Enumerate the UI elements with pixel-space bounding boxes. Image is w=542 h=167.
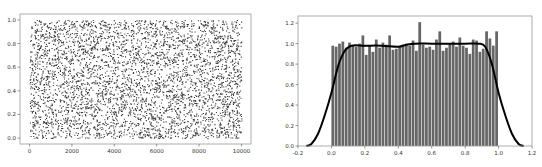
y-tick-label: 0.0 [7, 135, 16, 141]
histogram-bar [422, 45, 425, 146]
y-tick-label: 0.8 [7, 41, 16, 47]
histogram-bar [479, 52, 482, 146]
histogram-bar [492, 46, 495, 146]
histogram-bar [472, 40, 475, 146]
y-tick-label: 0.6 [285, 82, 294, 88]
x-tick-label: 0.6 [427, 150, 436, 156]
histogram-x-axis: -0.20.00.20.40.60.81.01.2 [293, 146, 537, 156]
histogram-bar [438, 31, 441, 146]
y-tick-label: 0.4 [7, 88, 16, 94]
histogram-bar [378, 48, 381, 146]
histogram-bar [392, 50, 395, 146]
x-tick-label: 0.0 [327, 150, 336, 156]
y-tick-label: 0.0 [285, 143, 294, 149]
histogram-bar [355, 47, 358, 146]
histogram-plot: 0.00.20.40.60.81.01.2 -0.20.00.20.40.60.… [285, 16, 536, 156]
histogram-bar [345, 48, 348, 146]
histogram-bar [335, 47, 338, 146]
histogram-bar [455, 47, 458, 146]
histogram-bar [388, 35, 391, 146]
histogram-bar [368, 46, 371, 146]
y-tick-label: 0.2 [285, 123, 294, 129]
x-tick-label: 1.0 [494, 150, 503, 156]
x-tick-label: 0.2 [360, 150, 369, 156]
histogram-bar [432, 50, 435, 146]
histogram-bar [351, 46, 354, 146]
histogram-bar [372, 52, 375, 146]
scatter-points [30, 20, 243, 139]
histogram-bar [428, 47, 431, 146]
scatter-plot: 0.00.20.40.60.81.0 020004000600080001000… [7, 14, 251, 154]
y-tick-label: 0.8 [285, 61, 294, 67]
scatter-marker-cloud [30, 20, 243, 139]
y-tick-label: 0.2 [7, 111, 16, 117]
x-tick-label: 2000 [65, 148, 79, 154]
histogram-bar [398, 47, 401, 146]
histogram-bar [458, 37, 461, 146]
x-tick-label: -0.2 [293, 150, 304, 156]
histogram-bar [362, 35, 365, 146]
x-tick-label: 1.2 [528, 150, 537, 156]
histogram-bar [408, 46, 411, 146]
histogram-bars [331, 22, 498, 146]
histogram-bar [425, 48, 428, 146]
histogram-bar [405, 44, 408, 146]
y-tick-label: 1.2 [285, 20, 294, 26]
x-tick-label: 10000 [233, 148, 251, 154]
histogram-bar [442, 51, 445, 146]
histogram-bar [418, 22, 421, 146]
y-tick-label: 0.6 [7, 64, 16, 70]
histogram-bar [448, 44, 451, 146]
histogram-bar [385, 45, 388, 146]
x-tick-label: 0.4 [394, 150, 403, 156]
histogram-bar [395, 49, 398, 146]
x-tick-label: 6000 [150, 148, 164, 154]
histogram-bar [402, 45, 405, 146]
x-tick-label: 8000 [192, 148, 206, 154]
y-tick-label: 0.4 [285, 102, 294, 108]
histogram-bar [468, 54, 471, 146]
histogram-bar [445, 48, 448, 146]
histogram-bar [375, 40, 378, 146]
y-tick-label: 1.0 [285, 41, 294, 47]
histogram-bar [462, 46, 465, 146]
histogram-bar [415, 51, 418, 146]
histogram-bar [475, 41, 478, 146]
x-tick-label: 4000 [107, 148, 121, 154]
histogram-bar [412, 41, 415, 146]
histogram-bar [331, 46, 334, 146]
x-tick-label: 0 [28, 148, 32, 154]
scatter-y-axis: 0.00.20.40.60.81.0 [7, 17, 20, 141]
figure: 0.00.20.40.60.81.0 020004000600080001000… [0, 0, 542, 167]
histogram-bar [452, 42, 455, 146]
histogram-y-axis: 0.00.20.40.60.81.01.2 [285, 20, 298, 149]
histogram-bar [358, 44, 361, 146]
histogram-bar [465, 48, 468, 146]
histogram-bar [482, 49, 485, 146]
histogram-bar [365, 55, 368, 146]
x-tick-label: 0.8 [461, 150, 470, 156]
histogram-bar [348, 43, 351, 146]
histogram-bar [435, 40, 438, 146]
scatter-x-axis: 0200040006000800010000 [28, 144, 251, 154]
y-tick-label: 1.0 [7, 17, 16, 23]
histogram-bar [382, 43, 385, 146]
